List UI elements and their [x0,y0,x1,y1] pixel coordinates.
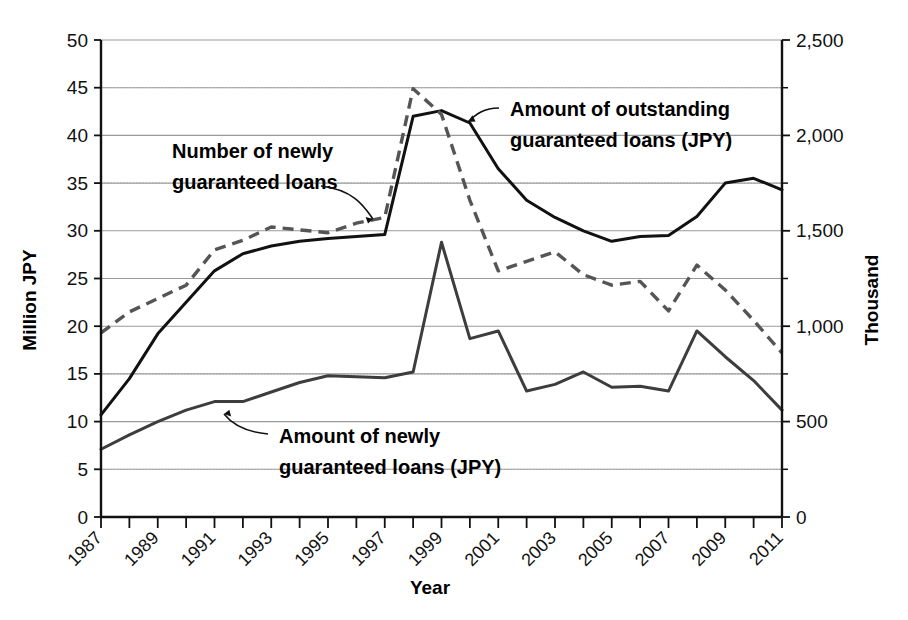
chart-figure: 05101520253035404550 05001,0001,5002,000… [0,0,908,620]
annotation-number-newly-guaranteed-line2: guaranteed loans [172,171,338,193]
annotation-newly-guaranteed-amount-line1: Amount of newly [279,425,441,447]
y-axis-right-tick-label: 1,500 [796,220,844,241]
line-chart-canvas: 05101520253035404550 05001,0001,5002,000… [0,0,908,620]
y-axis-left-tick-label: 0 [77,507,88,528]
y-axis-left-tick-label: 5 [77,459,88,480]
y-axis-left-tick-label: 40 [67,125,88,146]
y-axis-right-tick-label: 2,000 [796,125,844,146]
y-axis-left-tick-label: 10 [67,411,88,432]
y-axis-left-tick-label: 35 [67,173,88,194]
annotation-newly-guaranteed-amount-line2: guaranteed loans (JPY) [279,456,501,478]
y-axis-left-tick-label: 30 [67,220,88,241]
y-axis-left-tick-label: 45 [67,77,88,98]
y-axis-right-tick-label: 500 [796,411,828,432]
y-axis-left-tick-label: 20 [67,316,88,337]
y-axis-right-tick-label: 0 [796,507,807,528]
y-axis-left-title: Million JPY [19,249,40,351]
y-axis-left-tick-label: 50 [67,30,88,51]
y-axis-left-tick-label: 15 [67,363,88,384]
annotation-outstanding-guaranteed-line1: Amount of outstanding [510,98,730,120]
y-axis-left-tick-label: 25 [67,268,88,289]
annotation-number-newly-guaranteed-line1: Number of newly [172,140,334,162]
y-axis-right-title: Thousand [861,255,882,346]
y-axis-right-tick-label: 2,500 [796,30,844,51]
x-axis-title: Year [410,577,451,598]
annotation-outstanding-guaranteed-line2: guaranteed loans (JPY) [510,129,732,151]
y-axis-right-tick-label: 1,000 [796,316,844,337]
